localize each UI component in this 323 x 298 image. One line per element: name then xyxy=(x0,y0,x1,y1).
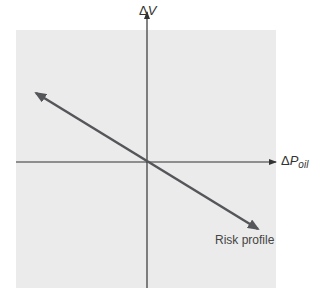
axes-and-line xyxy=(0,0,323,298)
risk-profile-line-lower xyxy=(147,161,258,229)
risk-profile-line xyxy=(36,93,147,161)
delta-symbol: Δ xyxy=(139,3,148,18)
x-axis-label: ΔPoil xyxy=(281,153,308,168)
delta-symbol: Δ xyxy=(281,153,290,168)
y-axis-label: ΔV xyxy=(139,3,156,18)
risk-profile-label: Risk profile xyxy=(215,233,274,247)
